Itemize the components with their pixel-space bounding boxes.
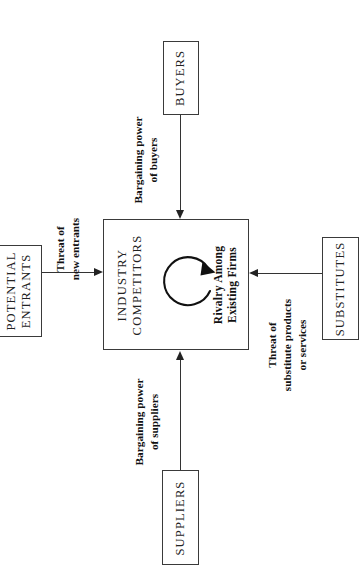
threat-of-substitutes-line2: substitute products — [280, 299, 295, 391]
threat-of-new-entrants-line1: Threat of — [53, 218, 68, 280]
industry-competitors-title: INDUSTRY COMPETITORS — [115, 234, 146, 335]
threat-of-new-entrants-label: Threat of new entrants — [53, 218, 83, 280]
substitutes-label-line1: SUBSTITUTES — [333, 241, 348, 336]
bargaining-power-of-suppliers-line1: Bargaining power — [132, 379, 147, 466]
threat-of-substitutes-label: Threat of substitute products or service… — [265, 299, 310, 391]
suppliers-label-line1: SUPPLIERS — [173, 480, 188, 555]
buyers-label: BUYERS — [173, 50, 188, 106]
substitutes-label: SUBSTITUTES — [333, 241, 348, 336]
threat-of-substitutes-line3: or services — [296, 299, 311, 391]
potential-entrants-label-line2: ENTRANTS — [19, 251, 34, 330]
potential-entrants-label: POTENTIAL ENTRANTS — [4, 251, 35, 330]
buyers-box: BUYERS — [163, 41, 199, 115]
industry-competitors-title-line2: COMPETITORS — [130, 234, 145, 335]
connector-suppliers-to-industry — [180, 360, 181, 470]
bargaining-power-of-suppliers-line2: of suppliers — [147, 379, 162, 466]
arrowhead-buyers-icon — [176, 210, 184, 219]
substitutes-box: SUBSTITUTES — [322, 237, 359, 340]
arrowhead-suppliers-icon — [176, 351, 184, 360]
rivalry-label-line1: Rivalry Among — [211, 245, 225, 323]
arrowhead-new-entrants-icon — [94, 268, 103, 276]
industry-competitors-box: INDUSTRY COMPETITORS Rivalry Among Exist… — [103, 219, 249, 350]
threat-of-substitutes-line1: Threat of — [265, 299, 280, 391]
arrowhead-substitutes-icon — [249, 269, 258, 277]
bargaining-power-of-buyers-label: Bargaining power of buyers — [131, 117, 161, 204]
porters-five-forces-diagram: INDUSTRY COMPETITORS Rivalry Among Exist… — [0, 0, 362, 585]
potential-entrants-box: POTENTIAL ENTRANTS — [0, 245, 42, 337]
connector-buyers-to-industry — [180, 115, 181, 210]
threat-of-new-entrants-line2: new entrants — [68, 218, 83, 280]
rivalry-label-line2: Existing Firms — [225, 245, 239, 323]
bargaining-power-of-buyers-line2: of buyers — [146, 117, 161, 204]
potential-entrants-label-line1: POTENTIAL — [4, 251, 19, 330]
buyers-label-line1: BUYERS — [173, 50, 188, 106]
bargaining-power-of-buyers-line1: Bargaining power — [131, 117, 146, 204]
suppliers-label: SUPPLIERS — [173, 480, 188, 555]
connector-substitutes-to-industry — [258, 273, 322, 274]
industry-competitors-title-line1: INDUSTRY — [115, 234, 130, 335]
rivalry-among-existing-firms-label: Rivalry Among Existing Firms — [211, 245, 239, 323]
suppliers-box: SUPPLIERS — [162, 470, 199, 565]
bargaining-power-of-suppliers-label: Bargaining power of suppliers — [132, 379, 162, 466]
